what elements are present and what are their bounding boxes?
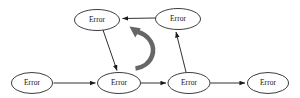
cycle-arrow [130, 27, 154, 69]
node-label: Error [24, 78, 41, 87]
node-n1[interactable]: Error [75, 10, 120, 31]
node-label: Error [260, 78, 277, 87]
node-n4[interactable]: Error [98, 73, 141, 94]
node-n6[interactable]: Error [248, 73, 289, 94]
node-label: Error [89, 15, 106, 24]
node-label: Error [170, 14, 187, 23]
node-n3[interactable]: Error [12, 73, 53, 94]
edge-n1-n4 [103, 30, 117, 71]
edge-n5-n2 [176, 32, 186, 72]
edge-n2-n1 [123, 18, 156, 19]
node-n5[interactable]: Error [168, 73, 210, 94]
node-label: Error [111, 78, 128, 87]
cycle-arrow-arc [136, 32, 154, 69]
diagram-canvas: Error Error Error Error Error Error [0, 0, 300, 98]
node-layer: Error Error Error Error Error Error [12, 9, 289, 94]
node-n2[interactable]: Error [156, 9, 201, 30]
node-label: Error [181, 78, 198, 87]
error-cycle-diagram: Error Error Error Error Error Error [0, 0, 300, 98]
